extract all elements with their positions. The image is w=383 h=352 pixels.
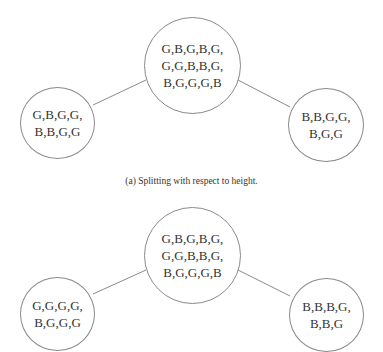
root-node-a: G,B,G,B,G, G,G,B,B,G, B,G,G,G,B [144, 17, 241, 114]
left-child-b-line-1: G,G,G,G, [32, 297, 83, 314]
panel-a-split-by-height: G,B,G,B,G, G,G,B,B,G, B,G,G,G,B G,B,G,G,… [0, 0, 383, 195]
caption-a: (a) Splitting with respect to height. [0, 176, 383, 186]
root-node-b-line-1: G,B,G,B,G, [162, 230, 224, 247]
left-child-a-line-1: G,B,G,G, [33, 106, 83, 123]
right-child-node-b: B,B,B,G, B,B,G [289, 278, 364, 352]
root-node-a-line-3: B,G,G,G,B [162, 74, 224, 91]
root-node-a-line-2: G,G,B,B,G, [162, 57, 224, 74]
panel-b-split: G,B,G,B,G, G,G,B,B,G, B,G,G,G,B G,G,G,G,… [0, 195, 383, 335]
root-node-b-line-2: G,G,B,B,G, [162, 247, 224, 264]
right-child-a-line-2: B,G,G [301, 125, 350, 142]
right-child-b-line-2: B,B,G [302, 315, 350, 332]
right-child-b-line-1: B,B,B,G, [302, 298, 350, 315]
left-child-a-line-2: B,B,G,G [33, 123, 83, 140]
right-child-a-line-1: B,B,G,G, [301, 108, 350, 125]
root-node-a-line-1: G,B,G,B,G, [162, 40, 224, 57]
root-node-b-line-3: B,G,G,G,B [162, 264, 224, 281]
right-child-node-a: B,B,G,G, B,G,G [288, 88, 364, 162]
root-node-b: G,B,G,B,G, G,G,B,B,G, B,G,G,G,B [144, 207, 241, 304]
left-child-b-line-2: B,G,G,G [32, 314, 83, 331]
left-child-node-a: G,B,G,G, B,B,G,G [20, 87, 95, 159]
left-child-node-b: G,G,G,G, B,G,G,G [20, 277, 95, 351]
